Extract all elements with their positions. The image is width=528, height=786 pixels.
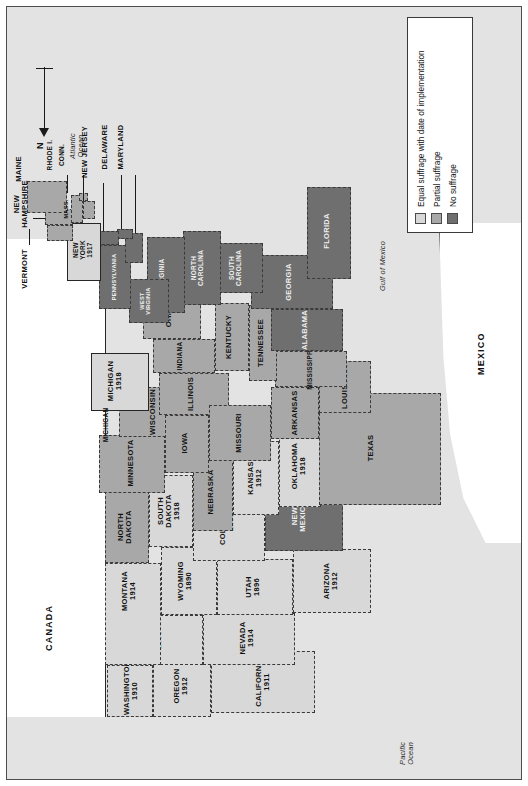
state-label-delaware: DELAWARE [101,119,109,175]
state-kentucky [215,303,249,371]
state-michigan [91,353,149,411]
state-florida [307,187,351,279]
state-label-new-jersey: NEW JERSEY [81,121,89,183]
legend-box: Equal suffrage with date of implementati… [407,17,473,233]
state-mississippi [275,351,347,387]
north-arrow-head [38,127,50,137]
state-north-dakota [105,491,149,563]
atlantic-ocean-label: AtlanticOcean [69,133,85,159]
legend-swatch-equal [415,213,426,224]
north-arrow-cross [36,68,53,69]
state-delaware [117,229,133,239]
state-missouri [209,405,271,461]
legend-row-equal: Equal suffrage with date of implementati… [415,26,426,224]
leader-vermont [29,229,30,245]
state-north-carolina [183,231,221,305]
pacific-ocean-region [7,717,522,779]
state-label-maine: MAINE [15,149,23,189]
state-label-connecticut: CONN. [59,135,66,175]
state-arkansas [271,387,319,439]
state-montana [105,563,161,665]
map-frame: CANADA PacificOcean AtlanticOcean Gulf o… [6,6,522,780]
state-vermont [47,225,73,241]
legend-swatch-none [447,213,458,224]
mexico-region [439,223,522,543]
leader-new-hampshire [33,218,45,219]
state-alabama [271,309,343,351]
state-washington [107,665,153,717]
legend-label-partial: Partial suffrage [432,151,442,207]
state-iowa [165,415,209,473]
state-connecticut [83,201,95,219]
state-utah [217,559,293,615]
leader-maryland [135,175,136,233]
north-arrow-shaft [44,67,45,129]
state-indiana [153,339,215,373]
north-arrow-label: N [35,143,45,150]
map-page: CANADA PacificOcean AtlanticOcean Gulf o… [0,0,528,786]
leader-connecticut [83,175,84,201]
leader-new-jersey [103,183,104,231]
state-west-virginia [129,279,169,323]
north-arrow: N [33,59,55,139]
legend-row-partial: Partial suffrage [431,26,442,224]
state-label-maryland: MARYLAND [117,119,125,175]
gulf-of-mexico-label: Gulf of Mexico [379,241,387,291]
legend-row-none: No suffrage [447,26,458,224]
leader-delaware [121,175,122,229]
state-arizona [293,549,371,613]
map-stage: CANADA PacificOcean AtlanticOcean Gulf o… [0,0,528,786]
canada-region [6,239,106,780]
legend-swatch-partial [431,213,442,224]
state-nevada [203,613,295,665]
state-minnesota [99,435,165,493]
legend-label-equal: Equal suffrage with date of implementati… [416,50,426,207]
legend-label-none: No suffrage [448,164,458,207]
state-maine [27,181,67,213]
state-south-carolina [219,243,263,293]
leader-rhode-island [67,175,68,193]
